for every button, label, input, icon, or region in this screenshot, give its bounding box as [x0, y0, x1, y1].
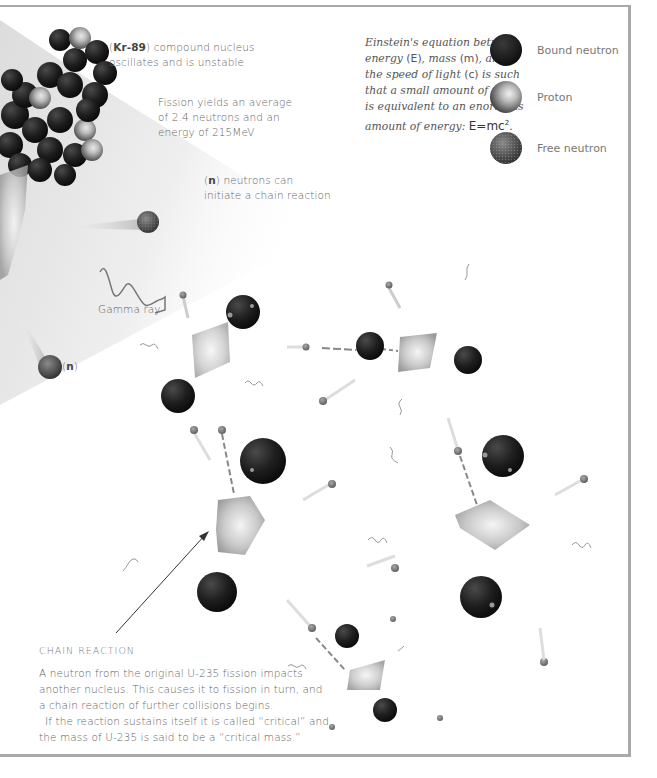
legend-item-proton: Proton: [489, 72, 639, 122]
legend: Bound neutron Proton Free neutron: [489, 28, 639, 174]
kr89-symbol: Kr-89: [113, 41, 146, 53]
neutron-n-label: (n): [62, 359, 78, 374]
legend-item-free-neutron: Free neutron: [489, 122, 639, 174]
caption-paragraph-2: If the reaction sustains itself it is ca…: [39, 713, 331, 745]
gamma-ray-label: Gamma ray: [98, 302, 161, 317]
legend-item-bound-neutron: Bound neutron: [489, 28, 639, 72]
free-neutron-icon: [489, 131, 523, 165]
fission-yield-label: Fission yields an average of 2.4 neutron…: [158, 95, 298, 140]
caption-heading: CHAIN REACTION: [39, 643, 135, 658]
kr89-label: (Kr-89) compound nucleus oscillates and …: [109, 40, 309, 70]
caption-body: A neutron from the original U-235 fissio…: [39, 665, 331, 745]
proton-icon: [489, 80, 523, 114]
bound-neutron-icon: [489, 33, 523, 67]
chain-initiate-label: (n) neutrons can initiate a chain reacti…: [204, 173, 364, 203]
fissioning-nuclei: [192, 322, 530, 690]
caption-paragraph-1: A neutron from the original U-235 fissio…: [39, 665, 331, 713]
